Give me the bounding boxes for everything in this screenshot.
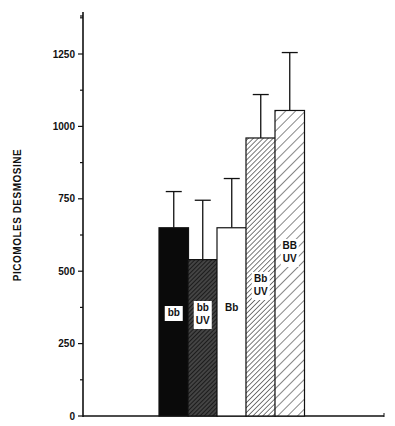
y-tick-label: 750 [58,193,75,204]
y-tick-label: 500 [58,266,75,277]
bar-bb-uv: BBUV [275,53,305,416]
bar-label: UV [254,286,268,297]
y-tick-labels: 025050075010001250 [53,49,76,422]
y-tick-label: 1000 [53,121,76,132]
bar-rect [159,228,189,416]
bar-label: Bb [254,273,267,284]
bar-label: bb [168,307,180,318]
bar-label: UV [196,315,210,326]
bar-label: bb [197,302,209,313]
bar-rect [188,260,218,416]
bar-bb-uv: bbUV [188,200,218,416]
bar-label: Bb [225,302,238,313]
bar-label: UV [283,253,297,264]
y-tick-label: 0 [69,411,75,422]
y-tick-label: 250 [58,338,75,349]
bar-bb-uv: BbUV [246,95,276,416]
bar-label: BB [283,240,297,251]
y-tick-label: 1250 [53,49,76,60]
y-axis-label: PICOMOLES DESMOSINE [12,149,23,281]
bars: bbbbUVBbBbUVBBUV [159,53,305,416]
bar-bb: bb [159,192,189,416]
bar-bb: Bb [217,179,247,416]
bar-rect [217,228,247,416]
bar-chart: bbbbUVBbBbUVBBUV 025050075010001250 PICO… [0,0,395,426]
